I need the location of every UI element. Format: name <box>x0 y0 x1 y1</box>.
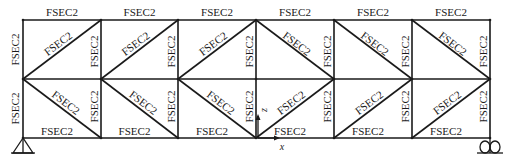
node-joint <box>333 78 336 81</box>
lower-vertical-label: FSEC2 <box>477 91 489 123</box>
lower-vertical-label: FSEC2 <box>399 91 411 123</box>
node-joint <box>411 78 414 81</box>
node-joint <box>333 19 336 22</box>
lower-vertical-label: FSEC2 <box>243 91 255 123</box>
pin-support-icon <box>11 138 35 153</box>
lower-vertical-label: FSEC2 <box>165 91 177 123</box>
node-joint <box>489 19 492 22</box>
truss-diagram: FSEC2FSEC2FSEC2FSEC2FSEC2FSEC2FSEC2FSEC2… <box>0 0 511 164</box>
upper-diagonal-label: FSEC2 <box>437 29 470 58</box>
node-joint <box>255 137 258 140</box>
bottom-chord-label: FSEC2 <box>119 125 151 137</box>
top-chord-label: FSEC2 <box>124 6 156 18</box>
upper-vertical-label: FSEC2 <box>321 36 333 68</box>
node-joint <box>333 137 336 140</box>
node-joint <box>22 78 25 81</box>
node-joint <box>22 19 25 22</box>
node-joint <box>177 137 180 140</box>
node-joint <box>489 78 492 81</box>
lower-vertical-label: FSEC2 <box>88 91 100 123</box>
left-upper-vertical-label: FSEC2 <box>9 34 21 66</box>
bottom-chord-label: FSEC2 <box>41 125 73 137</box>
upper-vertical-label: FSEC2 <box>399 36 411 68</box>
top-chord-label: FSEC2 <box>201 6 233 18</box>
top-chord-label: FSEC2 <box>46 6 78 18</box>
node-joint <box>411 137 414 140</box>
top-chord-label: FSEC2 <box>357 6 389 18</box>
upper-diagonal-label: FSEC2 <box>359 29 392 58</box>
upper-vertical-label: FSEC2 <box>88 36 100 68</box>
upper-vertical-label: FSEC2 <box>477 36 489 68</box>
bottom-chord-label: FSEC2 <box>430 125 462 137</box>
node-joint <box>411 19 414 22</box>
bottom-chord-label: FSEC2 <box>274 125 306 137</box>
roller-support-icon <box>477 138 503 153</box>
x-axis-label: x <box>279 141 285 152</box>
node-joint <box>177 19 180 22</box>
top-chord-label: FSEC2 <box>279 6 311 18</box>
node-joint <box>177 78 180 81</box>
node-joint <box>255 78 258 81</box>
upper-vertical-label: FSEC2 <box>243 36 255 68</box>
node-joint <box>100 19 103 22</box>
bottom-chord-label: FSEC2 <box>196 125 228 137</box>
bottom-chord-label: FSEC2 <box>352 125 384 137</box>
node-joint <box>100 78 103 81</box>
top-chord-label: FSEC2 <box>435 6 467 18</box>
upper-vertical-label: FSEC2 <box>165 36 177 68</box>
z-axis-label: z <box>258 108 269 113</box>
upper-diagonal-label: FSEC2 <box>281 29 314 58</box>
node-joint <box>100 137 103 140</box>
left-lower-vertical-label: FSEC2 <box>9 93 21 125</box>
lower-vertical-label: FSEC2 <box>321 91 333 123</box>
node-joint <box>255 19 258 22</box>
